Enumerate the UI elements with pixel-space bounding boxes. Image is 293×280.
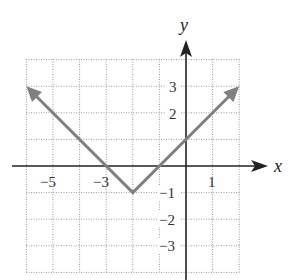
absolute-value-curve: [33, 93, 232, 193]
y-tick-label: −3: [159, 238, 175, 254]
coordinate-plane: x y −5 −3 1 3 2 −1 −2 −3: [0, 0, 293, 280]
x-tick-label: 1: [208, 174, 216, 190]
y-tick-label: −1: [159, 185, 175, 201]
x-axis-label: x: [273, 156, 282, 176]
y-tick-label: 2: [169, 106, 177, 122]
axes: [12, 40, 268, 280]
x-tick-label: −5: [40, 174, 56, 190]
y-tick-label: −2: [159, 212, 175, 228]
y-tick-label: 3: [169, 79, 177, 95]
y-axis-label: y: [178, 15, 188, 35]
x-tick-label: −3: [93, 174, 109, 190]
